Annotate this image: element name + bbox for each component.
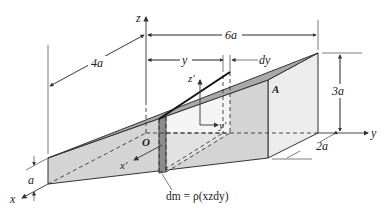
y-axis-label: y [370,126,377,140]
x-axis [22,184,48,198]
y-prime-label: y′ [218,119,227,131]
dim-dy-label: dy [259,53,271,67]
dim-2a-lead [287,151,300,158]
mass-element-label: dm = ρ(xzdy) [166,190,229,203]
point-a-label: A [271,83,279,95]
dim-a-ext-top [26,158,48,170]
dim-4a-label: 4a [91,56,103,70]
wedge-diagram: z y x z′ y′ x′ O A 6a y dy 4a 3a 2a a [0,0,391,214]
dim-6a-label: 6a [225,28,237,42]
z-prime-label: z′ [187,72,195,84]
right-end-face [268,53,318,158]
origin-label: O [142,136,150,148]
dim-2a-label: 2a [316,139,328,153]
dim-3a-label: 3a [331,84,344,98]
z-axis-label: z [135,11,141,25]
dim-y-label: y [181,53,188,67]
x-prime-label: x′ [119,159,128,171]
front-face [48,80,268,184]
x-axis-label: x [9,192,16,206]
mass-slice [159,117,166,173]
dim-a-label: a [28,173,34,187]
dm-leader-line [162,174,172,190]
wedge-figure-svg: z y x z′ y′ x′ O A 6a y dy 4a 3a 2a a [0,0,391,214]
